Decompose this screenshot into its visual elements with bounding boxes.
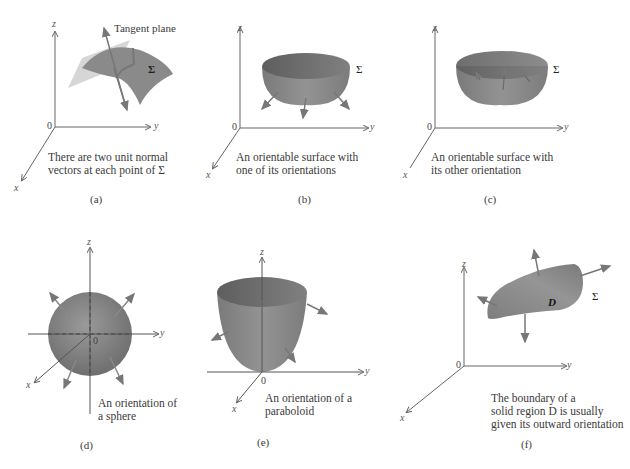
y-axis-label-f: y: [567, 359, 571, 370]
origin-label-a: 0: [47, 120, 52, 131]
z-axis-label-c: z: [433, 22, 437, 33]
panel-f: [407, 250, 610, 412]
y-axis-label-d: y: [160, 327, 164, 338]
sigma-label-f: Σ: [592, 290, 598, 302]
sigma-label-b: Σ: [356, 63, 362, 75]
sigma-label-c: Σ: [553, 63, 559, 75]
x-axis-label-a: x: [14, 182, 18, 193]
tangent-plane-label: Tangent plane: [114, 22, 176, 34]
x-axis-label-f: x: [400, 412, 404, 423]
y-axis-label-b: y: [370, 121, 374, 132]
panel-label-a: (a): [90, 193, 102, 205]
z-axis-label-b: z: [238, 22, 242, 33]
sigma-label-a: Σ: [148, 63, 155, 75]
y-axis-label-e: y: [365, 365, 369, 376]
origin-label-c: 0: [427, 121, 432, 132]
solid-region-surface: [487, 264, 583, 319]
panel-label-e: (e): [257, 436, 269, 448]
caption-c: An orientable surface with its other ori…: [431, 151, 553, 177]
z-axis-label-d: z: [87, 236, 91, 247]
caption-b: An orientable surface with one of its or…: [236, 151, 358, 177]
z-axis-label-a: z: [52, 18, 56, 29]
panel-d: [28, 248, 158, 414]
panel-label-b: (b): [298, 193, 311, 205]
origin-label-e: 0: [261, 375, 266, 386]
x-axis-label-b: x: [206, 169, 210, 180]
caption-f: The boundary of a solid region D is usua…: [491, 392, 624, 431]
panel-b: [213, 28, 368, 168]
caption-d: An orientation of a sphere: [98, 397, 177, 423]
origin-label-b: 0: [232, 121, 237, 132]
x-axis-label-d: x: [26, 379, 30, 390]
panel-label-d: (d): [80, 439, 93, 451]
y-axis-label-c: y: [564, 121, 568, 132]
z-axis-label-f: z: [462, 258, 466, 269]
caption-a: There are two unit normal vectors at eac…: [48, 151, 168, 177]
region-label-d: D: [548, 296, 556, 308]
panel-c: [410, 28, 562, 168]
origin-label-f: 0: [456, 359, 461, 370]
caption-e: An orientation of a paraboloid: [265, 392, 352, 418]
panel-e: [207, 258, 363, 402]
panel-label-c: (c): [484, 193, 496, 205]
y-axis-label-a: y: [154, 120, 158, 131]
z-axis-label-e: z: [260, 246, 264, 257]
origin-label-d: 0: [93, 335, 98, 346]
x-axis-label-e: x: [232, 403, 236, 414]
panel-label-f: (f): [521, 438, 532, 450]
x-axis-label-c: x: [403, 169, 407, 180]
